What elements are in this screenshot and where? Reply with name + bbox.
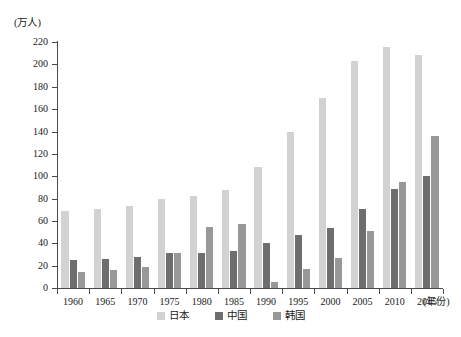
bars-layer bbox=[0, 0, 461, 337]
bar bbox=[271, 282, 278, 288]
bar bbox=[190, 196, 197, 288]
legend-label: 中国 bbox=[227, 310, 247, 322]
legend-label: 日本 bbox=[169, 310, 189, 322]
bar bbox=[423, 176, 430, 288]
bar bbox=[399, 182, 406, 288]
bar bbox=[238, 224, 245, 288]
bar bbox=[126, 206, 133, 288]
bar bbox=[359, 209, 366, 288]
legend: 日本中国韩国 bbox=[0, 310, 461, 322]
bar bbox=[70, 260, 77, 288]
bar bbox=[198, 253, 205, 288]
bar bbox=[166, 253, 173, 288]
bar bbox=[222, 190, 229, 288]
bar bbox=[230, 251, 237, 288]
legend-item[interactable]: 日本 bbox=[157, 310, 189, 322]
legend-swatch-icon bbox=[273, 312, 281, 320]
x-axis-unit-label: (年份) bbox=[423, 296, 450, 307]
bar bbox=[61, 211, 68, 288]
bar bbox=[134, 257, 141, 288]
bar bbox=[263, 243, 270, 288]
bar bbox=[415, 55, 422, 288]
bar bbox=[319, 98, 326, 288]
bar bbox=[174, 253, 181, 288]
legend-swatch-icon bbox=[215, 312, 223, 320]
bar bbox=[110, 270, 117, 288]
bar bbox=[94, 209, 101, 288]
bar bbox=[383, 47, 390, 289]
bar bbox=[431, 136, 438, 288]
bar bbox=[254, 167, 261, 288]
bar bbox=[367, 231, 374, 288]
legend-swatch-icon bbox=[157, 312, 165, 320]
bar bbox=[295, 235, 302, 288]
bar bbox=[287, 132, 294, 289]
legend-item[interactable]: 韩国 bbox=[273, 310, 305, 322]
bar bbox=[142, 267, 149, 288]
bar bbox=[303, 269, 310, 288]
legend-item[interactable]: 中国 bbox=[215, 310, 247, 322]
legend-label: 韩国 bbox=[285, 310, 305, 322]
bar bbox=[391, 189, 398, 289]
bar bbox=[158, 199, 165, 289]
bar bbox=[335, 258, 342, 288]
bar bbox=[78, 272, 85, 288]
bar bbox=[206, 227, 213, 289]
bar bbox=[102, 259, 109, 288]
bar bbox=[327, 228, 334, 288]
bar bbox=[351, 61, 358, 288]
bar-chart: (万人) 020406080100120140160180200220 1960… bbox=[0, 0, 461, 337]
